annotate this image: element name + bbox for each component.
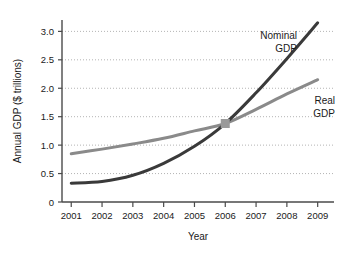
x-tick-label-2008: 2008 — [276, 210, 297, 221]
x-axis-tick-labels: 200120022003200420052006200720082009 — [61, 210, 329, 221]
x-tick-label-2009: 2009 — [307, 210, 328, 221]
y-tick-label-1.0: 1.0 — [41, 140, 54, 151]
x-tick-label-2005: 2005 — [184, 210, 205, 221]
series-label-real-gdp-line1: Real — [314, 95, 335, 106]
y-tick-label-2.5: 2.5 — [41, 54, 54, 65]
y-tick-label-2.0: 2.0 — [41, 83, 54, 94]
gdp-line-chart: 00.51.01.52.02.53.0 20012002200320042005… — [0, 0, 348, 253]
x-tick-label-2004: 2004 — [153, 210, 174, 221]
y-tick-label-1.5: 1.5 — [41, 111, 54, 122]
series-label-nominal-gdp-line1: Nominal — [260, 30, 297, 41]
chart-canvas: 00.51.01.52.02.53.0 20012002200320042005… — [0, 0, 348, 253]
series-label-real-gdp-line2: GDP — [313, 108, 335, 119]
x-axis-title: Year — [188, 231, 209, 242]
x-tick-label-2006: 2006 — [215, 210, 236, 221]
x-tick-label-2001: 2001 — [61, 210, 82, 221]
y-tick-label-0.5: 0.5 — [41, 168, 54, 179]
y-tick-label-0: 0 — [49, 197, 54, 208]
x-tick-label-2007: 2007 — [245, 210, 266, 221]
series-label-nominal-gdp-line2: GDP — [275, 43, 297, 54]
crossing-point-marker — [221, 119, 230, 128]
y-tick-label-3.0: 3.0 — [41, 26, 54, 37]
x-tick-label-2003: 2003 — [122, 210, 143, 221]
y-axis-title: Annual GDP ($ trillions) — [12, 59, 23, 163]
x-tick-label-2002: 2002 — [91, 210, 112, 221]
